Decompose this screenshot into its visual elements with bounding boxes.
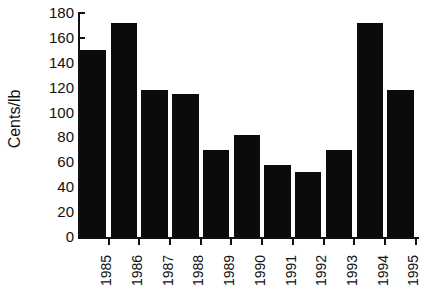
x-axis-tick-label: 1994: [376, 255, 390, 286]
x-axis-tick-label: 1995: [406, 255, 420, 286]
x-axis-tick-label: 1990: [253, 255, 267, 286]
x-axis-tick-label: 1991: [284, 255, 298, 286]
x-axis-tick-label: 1988: [191, 255, 205, 286]
x-axis-tick-label: 1986: [130, 255, 144, 286]
x-axis-tick-labels: 1985198619871988198919901991199219931994…: [0, 0, 429, 295]
x-axis-tick-label: 1987: [161, 255, 175, 286]
x-axis-tick-label: 1985: [99, 255, 113, 286]
bar-chart-figure: Cents/lb 020406080100120140160180 198519…: [0, 0, 429, 295]
x-axis-tick-label: 1989: [222, 255, 236, 286]
x-axis-tick-label: 1992: [314, 255, 328, 286]
x-axis-tick-label: 1993: [345, 255, 359, 286]
